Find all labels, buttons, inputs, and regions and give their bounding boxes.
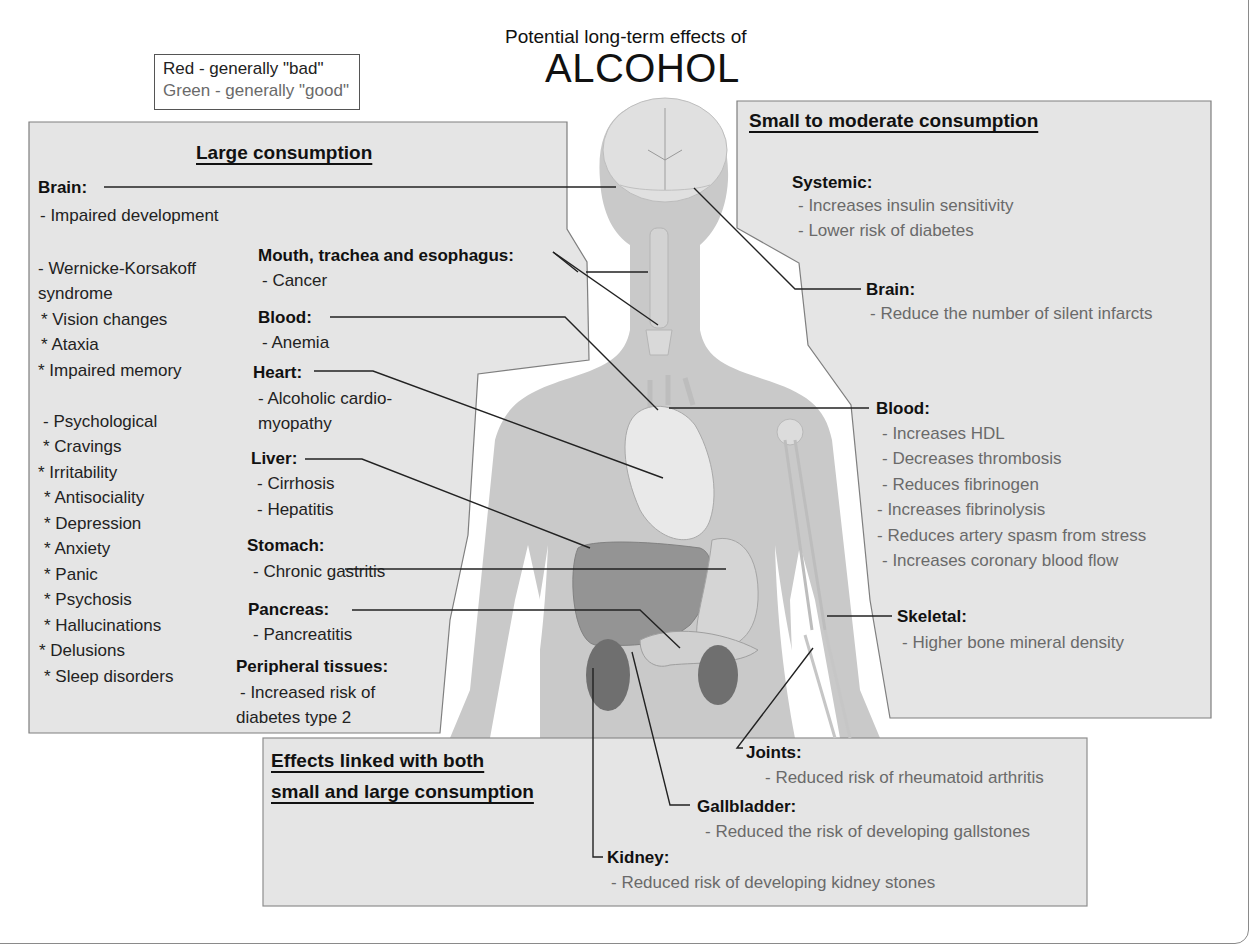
large-brain-item: * Hallucinations [44, 613, 161, 639]
small-blood-item: - Increases coronary blood flow [882, 548, 1118, 574]
large-brain-item: - Wernicke-Korsakoff [38, 256, 196, 282]
joints-item: - Reduced risk of rheumatoid arthritis [765, 765, 1044, 791]
large-brain-item: * Sleep disorders [44, 664, 173, 690]
large-brain-item: * Depression [44, 511, 141, 537]
small-brain-item: - Reduce the number of silent infarcts [870, 301, 1153, 327]
large-brain-heading: Brain: [38, 175, 87, 201]
systemic-item: - Increases insulin sensitivity [798, 193, 1013, 219]
brain-illustration [603, 98, 727, 202]
small-blood-item: - Reduces fibrinogen [882, 472, 1039, 498]
figure-subtitle: Potential long-term effects of [505, 26, 747, 48]
figure-title: ALCOHOL [545, 46, 740, 91]
trachea-illustration [646, 228, 672, 355]
heart-heading: Heart: [253, 360, 302, 386]
small-consumption-title: Small to moderate consumption [749, 110, 1038, 132]
both-title-line2: small and large consumption [271, 776, 534, 807]
large-brain-item: * Delusions [39, 638, 125, 664]
large-brain-item: - Impaired development [40, 203, 219, 229]
both-consumption-title: Effects linked with both small and large… [271, 745, 534, 807]
small-blood-item: - Reduces artery spasm from stress [877, 523, 1146, 549]
kidney-item: - Reduced risk of developing kidney ston… [611, 870, 935, 896]
heart-item: - Alcoholic cardio- [258, 386, 392, 412]
stomach-heading: Stomach: [247, 533, 324, 559]
gallbladder-item: - Reduced the risk of developing gallsto… [705, 819, 1030, 845]
large-brain-item: * Vision changes [41, 307, 167, 333]
legend-green-label: Green - generally "good" [163, 80, 359, 102]
both-title-line1: Effects linked with both [271, 745, 534, 776]
large-blood-item: - Anemia [262, 330, 329, 356]
large-brain-item: - Psychological [43, 409, 157, 435]
large-blood-heading: Blood: [258, 305, 312, 331]
large-brain-item: * Psychosis [44, 587, 132, 613]
large-brain-item: * Ataxia [41, 332, 99, 358]
large-brain-item: * Impaired memory [38, 358, 182, 384]
large-brain-item: * Antisociality [44, 485, 144, 511]
large-brain-item: * Panic [44, 562, 98, 588]
skeletal-heading: Skeletal: [897, 604, 967, 630]
gallbladder-heading: Gallbladder: [697, 794, 796, 820]
mouth-item: - Cancer [262, 268, 327, 294]
large-consumption-title: Large consumption [196, 142, 372, 164]
mouth-heading: Mouth, trachea and esophagus: [258, 243, 514, 269]
peripheral-item: - Increased risk of [240, 680, 375, 706]
large-brain-item: * Cravings [43, 434, 121, 460]
legend-red-label: Red - generally "bad" [163, 58, 359, 80]
large-brain-item: * Irritability [38, 460, 117, 486]
small-blood-item: - Decreases thrombosis [882, 446, 1062, 472]
liver-item: - Cirrhosis [257, 471, 334, 497]
kidney-heading: Kidney: [607, 845, 669, 871]
stomach-item: - Chronic gastritis [253, 559, 385, 585]
small-blood-heading: Blood: [876, 396, 930, 422]
large-brain-item: syndrome [38, 281, 113, 307]
pancreas-item: - Pancreatitis [253, 622, 352, 648]
small-blood-item: - Increases fibrinolysis [877, 497, 1045, 523]
skeletal-item: - Higher bone mineral density [902, 630, 1124, 656]
kidney-right-illustration [698, 645, 738, 705]
peripheral-item: diabetes type 2 [236, 705, 351, 731]
joints-heading: Joints: [746, 740, 802, 766]
heart-item: myopathy [258, 411, 332, 437]
small-brain-heading: Brain: [866, 277, 915, 303]
large-brain-item: * Anxiety [44, 536, 110, 562]
systemic-item: - Lower risk of diabetes [798, 218, 974, 244]
liver-heading: Liver: [251, 446, 297, 472]
color-legend: Red - generally "bad" Green - generally … [154, 54, 360, 110]
peripheral-heading: Peripheral tissues: [236, 654, 388, 680]
liver-item: - Hepatitis [257, 497, 334, 523]
anatomy-diagram [0, 0, 1259, 950]
small-blood-item: - Increases HDL [882, 421, 1005, 447]
systemic-heading: Systemic: [792, 170, 872, 196]
pancreas-heading: Pancreas: [248, 597, 329, 623]
